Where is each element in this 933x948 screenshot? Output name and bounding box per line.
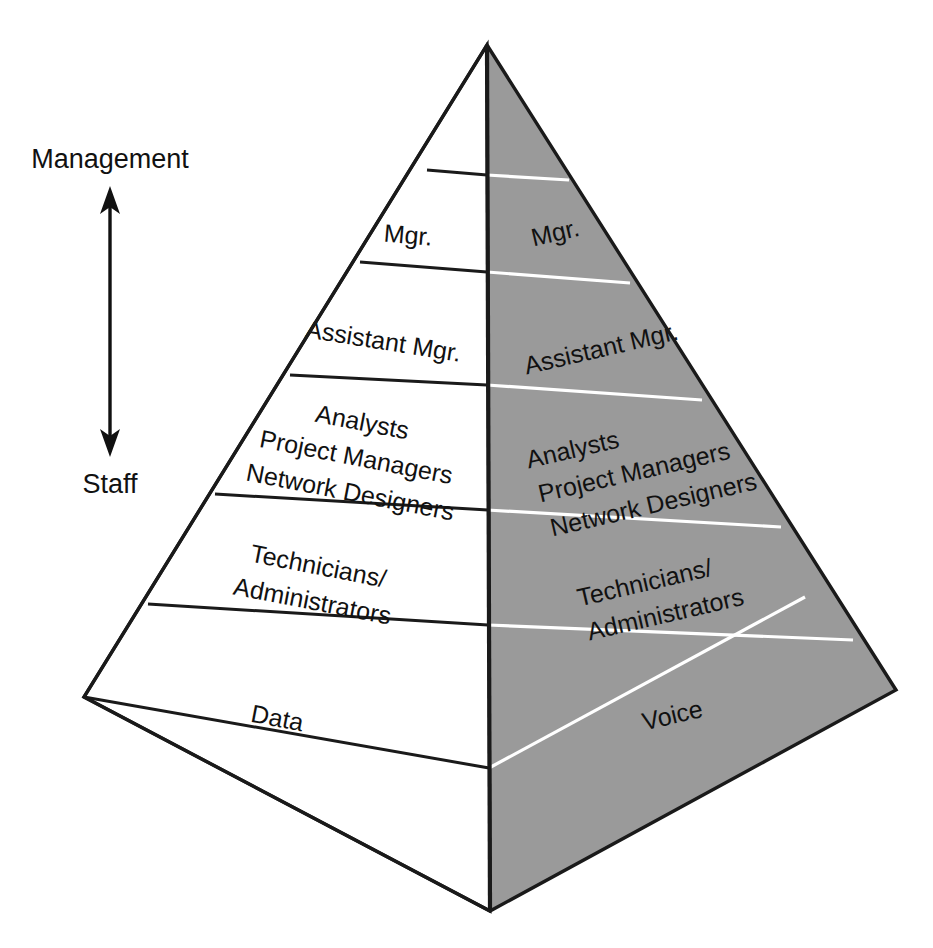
front-tier-label-mgr: Mgr.: [383, 219, 434, 251]
pyramid-center-edge: [487, 45, 490, 911]
front-face-group: Mgr. Assistant Mgr. Analysts Project Man…: [84, 45, 490, 911]
axis-top-label: Management: [31, 144, 189, 174]
management-staff-axis: Management Staff: [31, 144, 189, 499]
right-face-group: Mgr. Assistant Mgr. Analysts Project Man…: [487, 45, 896, 911]
axis-bottom-label: Staff: [82, 469, 138, 499]
pyramid-illustration: Mgr. Assistant Mgr. Analysts Project Man…: [0, 0, 933, 948]
pyramid-diagram: Mgr. Assistant Mgr. Analysts Project Man…: [0, 0, 933, 948]
